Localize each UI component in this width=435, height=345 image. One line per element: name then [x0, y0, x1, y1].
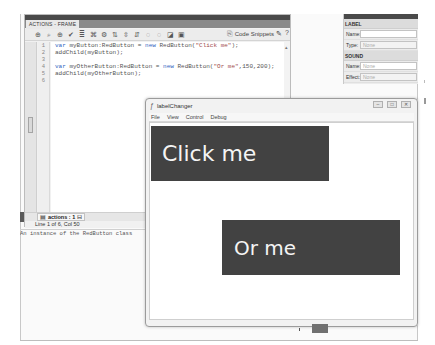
minimize-button[interactable]: – [373, 101, 383, 108]
code-line: addChild(myButton); [51, 49, 284, 56]
collapse-handle[interactable] [28, 117, 33, 133]
swf-stage: Click me Or me [149, 122, 414, 320]
sound-effect-select[interactable]: None [360, 73, 417, 81]
sound-name-row: Name: None [344, 61, 418, 72]
label-section-header[interactable]: LABEL [344, 19, 418, 29]
code-snippets-label: Code Snippets [235, 31, 274, 37]
edge-mark [424, 80, 425, 83]
pin-icon[interactable]: ⊟ [77, 214, 82, 220]
flash-player-window: ƒ labelChanger – □ ✕ File View Control D… [145, 98, 418, 327]
click-me-button[interactable]: Click me [151, 126, 329, 181]
or-me-button[interactable]: Or me [222, 220, 400, 275]
player-titlebar[interactable]: ƒ labelChanger [150, 102, 193, 109]
menu-view[interactable]: View [167, 113, 179, 121]
code-line [51, 56, 284, 63]
label-name-input[interactable] [360, 30, 417, 38]
remove-comment-icon[interactable]: ◪ [166, 31, 174, 39]
line-number: 6 [38, 77, 49, 84]
ide-frame-bottom [20, 340, 418, 341]
line-number: 2 [38, 49, 49, 56]
line-number: 1 [38, 42, 49, 49]
player-menubar: File View Control Debug [149, 113, 414, 122]
script-icon: ▤ [40, 214, 46, 220]
maximize-button[interactable]: □ [387, 101, 397, 108]
output-text: An instance of the RedButton class [20, 229, 148, 236]
script-tab[interactable]: ▤ actions : 1 ⊟ [37, 213, 85, 221]
scroll-thumb[interactable] [312, 324, 328, 333]
line-comment-icon[interactable]: ◌ [155, 31, 163, 39]
edge-mark [424, 98, 426, 104]
expand-all-icon[interactable]: ⇵ [133, 31, 141, 39]
collapse-between-icon[interactable]: ⇅ [111, 31, 119, 39]
target-icon[interactable]: ⊕ [56, 31, 64, 39]
line-number: 4 [38, 63, 49, 70]
label-name-row: Name: [344, 29, 418, 40]
collapse-selection-icon[interactable]: ⇳ [122, 31, 130, 39]
tab-actions-frame[interactable]: ACTIONS - FRAME [26, 20, 79, 29]
line-number-gutter: 1 2 3 4 5 6 [38, 42, 50, 212]
sound-name-select[interactable]: None [360, 62, 417, 70]
label-type-row: Type: None [344, 40, 418, 51]
menu-control[interactable]: Control [186, 113, 204, 121]
code-snippets-icon: ⎘ [227, 30, 233, 38]
code-line: var myOtherButton:RedButton = new RedBut… [51, 63, 284, 70]
code-snippets-button[interactable]: ⎘ Code Snippets [227, 30, 274, 38]
menu-file[interactable]: File [151, 113, 160, 121]
code-hint-icon[interactable]: ⌘ [89, 31, 97, 39]
check-syntax-icon[interactable]: ✔ [67, 31, 75, 39]
wrench-icon[interactable]: ✎ [276, 30, 282, 38]
auto-format-icon[interactable]: ≣ [78, 31, 86, 39]
window-title: labelChanger [157, 103, 193, 109]
flash-player-icon: ƒ [150, 102, 154, 109]
menu-debug[interactable]: Debug [210, 113, 226, 121]
debug-options-icon[interactable]: ⚙ [100, 31, 108, 39]
actions-toolbox-collapsed [25, 42, 37, 212]
label-type-select[interactable]: None [360, 41, 417, 49]
properties-panel: LABEL Name: Type: None SOUND Name: None … [343, 14, 418, 84]
line-number: 5 [38, 70, 49, 77]
sound-section-header[interactable]: SOUND [344, 51, 418, 61]
help-icon[interactable]: ? [285, 29, 289, 36]
code-line: var myButton:RedButton = new RedButton("… [51, 42, 284, 49]
screen: ACTIONS - FRAME ⊕ ⌕ ⊕ ✔ ≣ ⌘ ⚙ ⇅ ⇳ ⇵ ◌ ◌ … [0, 0, 435, 345]
close-button[interactable]: ✕ [401, 101, 411, 108]
timeline-tick [299, 328, 300, 331]
find-icon[interactable]: ⌕ [45, 31, 53, 39]
line-number: 3 [38, 56, 49, 63]
add-statement-icon[interactable]: ⊕ [34, 31, 42, 39]
block-comment-icon[interactable]: ◌ [144, 31, 152, 39]
code-line [51, 77, 284, 84]
panel-edge-marker [20, 212, 24, 222]
sound-effect-row: Effect: None [344, 72, 418, 83]
scroll-up-icon[interactable]: ▴ [285, 44, 288, 50]
window-controls: – □ ✕ [373, 101, 411, 108]
code-line: addChild(myOtherButton); [51, 70, 284, 77]
show-hide-toolbox-icon[interactable]: ▣ [177, 31, 185, 39]
